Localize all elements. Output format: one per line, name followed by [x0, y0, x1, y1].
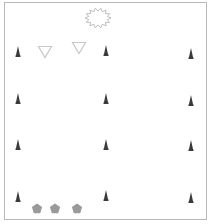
spike-icon: [103, 139, 109, 150]
pentagon-icon: [31, 203, 43, 214]
spike-icon: [188, 140, 194, 151]
spike-icon: [188, 95, 194, 106]
spike-icon: [15, 46, 21, 57]
spike-icon: [103, 45, 109, 56]
spike-icon: [15, 139, 21, 150]
triangle-icon: [71, 41, 87, 55]
triangle-icon: [37, 45, 53, 59]
game-board: [4, 2, 207, 220]
spike-icon: [103, 93, 109, 104]
spike-icon: [188, 192, 194, 203]
starburst-icon: [84, 7, 112, 29]
spike-icon: [15, 191, 21, 202]
spike-icon: [103, 190, 109, 201]
pentagon-icon: [49, 203, 61, 214]
spike-icon: [15, 93, 21, 104]
spike-icon: [188, 48, 194, 59]
game-stage: [0, 0, 212, 224]
pentagon-icon: [71, 203, 83, 214]
